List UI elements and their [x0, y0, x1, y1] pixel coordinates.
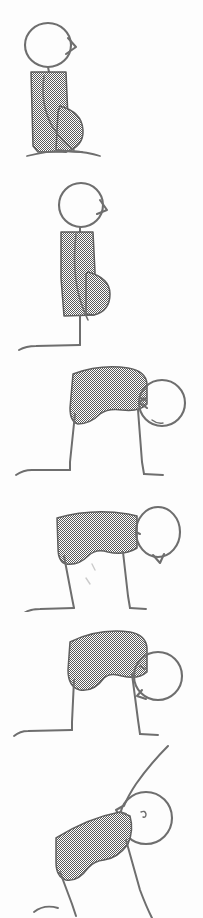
torso-mass	[56, 812, 132, 880]
torso-mass	[57, 512, 137, 565]
head-circle	[59, 183, 103, 227]
frame-5-drawing	[0, 614, 203, 742]
chin-mark	[152, 420, 163, 423]
head-circle	[136, 507, 180, 557]
frame-3-drawing	[0, 358, 203, 486]
frame-2-rising-kneel	[0, 168, 203, 354]
head-circle	[25, 23, 71, 67]
foot-line-right	[130, 608, 146, 609]
motion-sequence-sheet	[0, 0, 203, 918]
frame-1-upright-kneel	[0, 0, 203, 164]
foot-line-right	[140, 734, 158, 735]
eye-mark	[141, 811, 146, 817]
foot-line-left	[34, 907, 58, 912]
torso-mass	[70, 367, 147, 424]
haunch-mass	[56, 106, 83, 152]
foot-line-right	[144, 474, 163, 475]
foot-line-left	[14, 730, 72, 736]
frame-2-drawing	[0, 168, 203, 354]
frame-6-rising-with-arm	[0, 744, 203, 918]
leg-line-left	[72, 680, 74, 730]
haunch-mass	[86, 272, 110, 315]
leg-line-right	[138, 410, 144, 474]
leg-line-right	[126, 840, 152, 918]
frame-1-drawing	[0, 0, 203, 164]
foot-line-left	[24, 608, 74, 612]
frame-3-bent-over	[0, 358, 203, 486]
leg-line-left	[70, 414, 75, 470]
frame-4-head-raised	[0, 490, 203, 612]
foot-line	[19, 345, 80, 350]
smudge-mark	[86, 564, 95, 584]
frame-4-drawing	[0, 490, 203, 612]
leg-line-right	[123, 552, 130, 608]
beak-icon	[153, 554, 164, 563]
frame-6-drawing	[0, 744, 203, 918]
foot-line-left	[16, 470, 70, 475]
frame-5-deep-bend	[0, 614, 203, 742]
